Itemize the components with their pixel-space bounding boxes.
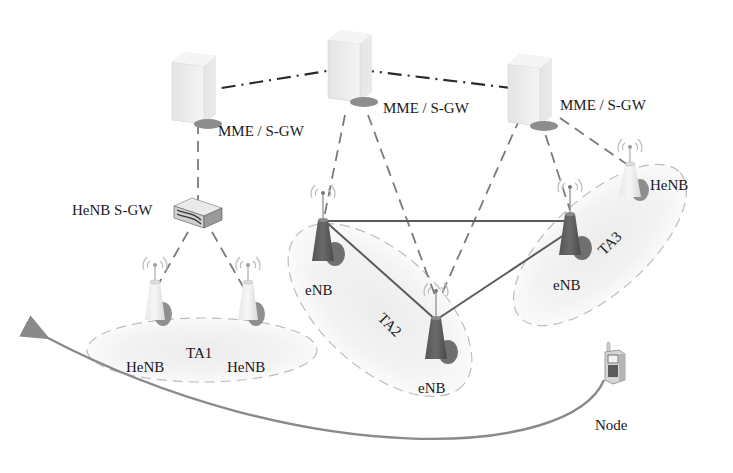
label-ta1: TA1 [186,345,212,361]
mobile-phone-icon [605,342,625,384]
router-icon-henb-sgw [174,198,222,228]
label-henb-2: HeNB [227,359,265,375]
label-enb-2: eNB [418,380,446,396]
label-mme3: MME / S-GW [560,97,647,113]
label-mme1: MME / S-GW [218,123,305,139]
server-icon-mme3 [508,54,558,131]
label-enb-3: eNB [553,277,581,293]
label-enb-1: eNB [305,282,333,298]
henb-icon-2 [236,257,265,326]
server-icon-mme1 [172,52,222,129]
tracking-area-ta2 [258,192,502,428]
network-diagram: MME / S-GW MME / S-GW MME / S-GW HeNB S-… [0,0,733,473]
label-henb-3: HeNB [650,177,688,193]
server-icon-mme2 [328,30,378,107]
label-node: Node [595,417,628,433]
label-henb-1: HeNB [126,359,164,375]
label-henb-sgw: HeNB S-GW [72,202,153,218]
label-mme2: MME / S-GW [383,100,470,116]
